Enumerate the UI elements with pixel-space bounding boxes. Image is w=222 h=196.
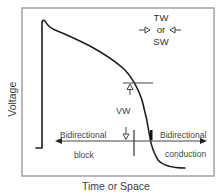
wave-label-or: or [152,25,170,35]
vw-up-arrow-icon [127,84,133,95]
wave-label-sw: SW [152,37,170,47]
wave-left-arrow-icon [139,27,150,33]
action-potential-diagram: Voltage Time or Space TW or SW VW Bidire… [0,0,222,196]
vw-down-arrow-icon [123,127,129,140]
y-axis-label: Voltage [7,79,18,119]
diagram-canvas [0,0,222,196]
curve-marker [150,130,153,140]
vulnerable-window-label: VW [116,107,131,116]
left-region-label-line2: block [74,151,94,160]
right-region-label-line1: Bidirectional [160,131,206,140]
wave-right-arrow-icon [170,27,181,33]
left-region-label-line1: Bidirectional [60,131,106,140]
right-region-label-line2: conduction [165,150,206,159]
x-axis-label: Time or Space [82,181,150,192]
wave-label-tw: TW [152,13,170,23]
